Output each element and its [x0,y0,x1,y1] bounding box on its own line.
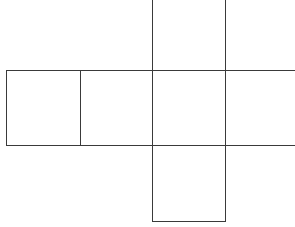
net-square-row-1 [6,70,80,145]
bottom-square-bottom-edge-line [152,221,226,222]
row-bottom-edge-line [6,145,295,146]
net-square-row-2 [80,70,152,145]
net-square-bottom [152,145,225,221]
net-square-row-4 [225,70,295,145]
net-square-top [152,0,225,70]
net-square-row-3-center [152,70,225,145]
cube-net-diagram [0,0,295,227]
